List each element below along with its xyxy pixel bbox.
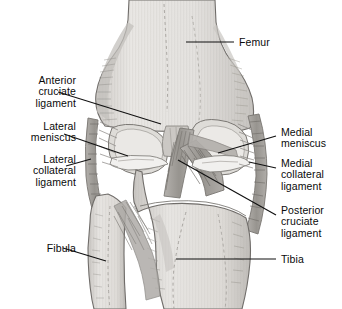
knee-anatomy-figure: Femur Anterior cruciate ligament Lateral… bbox=[0, 0, 342, 309]
label-femur[interactable]: Femur bbox=[239, 37, 303, 48]
label-lateral-meniscus[interactable]: Lateral meniscus bbox=[14, 121, 76, 144]
label-medial-collateral-ligament[interactable]: Medial collateral ligament bbox=[281, 158, 342, 192]
label-lateral-collateral-ligament[interactable]: Lateral collateral ligament bbox=[14, 154, 76, 188]
label-medial-meniscus[interactable]: Medial meniscus bbox=[281, 127, 342, 150]
label-posterior-cruciate-ligament[interactable]: Posterior cruciate ligament bbox=[281, 205, 342, 239]
medial-collateral-ligament bbox=[246, 114, 267, 234]
label-fibula[interactable]: Fibula bbox=[14, 243, 76, 254]
label-tibia[interactable]: Tibia bbox=[281, 254, 342, 265]
label-anterior-cruciate-ligament[interactable]: Anterior cruciate ligament bbox=[14, 75, 76, 109]
medial-meniscus bbox=[192, 156, 250, 173]
femur-shading bbox=[96, 0, 254, 134]
